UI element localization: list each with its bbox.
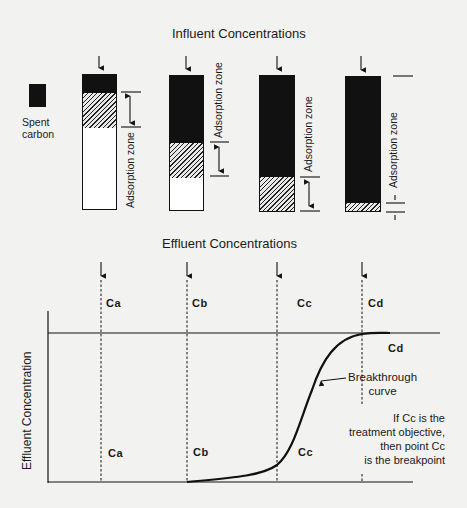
effluent-arrow-icon xyxy=(101,262,362,276)
zone-bracket-2 xyxy=(210,142,229,176)
curve-pointer-arrow xyxy=(321,378,346,381)
zone-bracket-3 xyxy=(300,177,320,211)
breakthrough-curve xyxy=(187,333,390,482)
influent-arrow-icon xyxy=(99,56,361,70)
diagram-lines xyxy=(0,0,467,508)
zone-bracket-4 xyxy=(386,76,413,220)
zone-bracket-1 xyxy=(121,92,141,127)
